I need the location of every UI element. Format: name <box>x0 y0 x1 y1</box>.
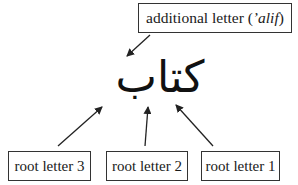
alif-italic: ’alif <box>253 9 279 27</box>
arabic-word: كتاب <box>100 44 220 108</box>
arrow-root3 <box>58 107 102 146</box>
root-letter-1-label: root letter 1 <box>201 151 280 181</box>
additional-letter-label: additional letter (’alif) <box>138 3 292 33</box>
root-letter-2-label: root letter 2 <box>106 151 188 181</box>
additional-letter-suffix: ) <box>279 9 284 27</box>
arrow-root2 <box>145 107 148 146</box>
root-letter-3-label: root letter 3 <box>8 151 91 181</box>
arrow-root1 <box>176 105 213 146</box>
additional-letter-prefix: additional letter ( <box>146 9 253 27</box>
